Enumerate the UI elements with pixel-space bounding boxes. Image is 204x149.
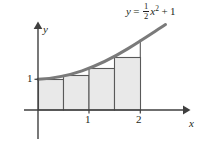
x-axis-label: x <box>189 118 194 129</box>
y-tick-label-1: 1 <box>27 73 33 84</box>
x-axis-arrowhead <box>183 106 191 115</box>
riemann-sum-figure: y = 12x2 + 1 y x 1 1 2 <box>0 0 204 149</box>
riemann-rect-4 <box>115 58 141 111</box>
equation-constant: 1 <box>170 5 176 17</box>
y-axis-arrowhead <box>34 22 43 30</box>
equation-fraction: 12 <box>143 2 149 20</box>
y-axis-label: y <box>43 24 48 35</box>
riemann-rect-3 <box>89 69 115 111</box>
x-tick-label-1: 1 <box>85 114 91 125</box>
fraction-numerator: 1 <box>143 2 149 11</box>
fraction-denominator: 2 <box>143 11 149 21</box>
riemann-rectangles <box>39 58 141 111</box>
x-tick-label-2: 2 <box>136 114 142 125</box>
riemann-rect-1 <box>39 80 64 111</box>
function-equation-label: y = 12x2 + 1 <box>126 2 176 20</box>
riemann-rect-2 <box>64 76 90 111</box>
